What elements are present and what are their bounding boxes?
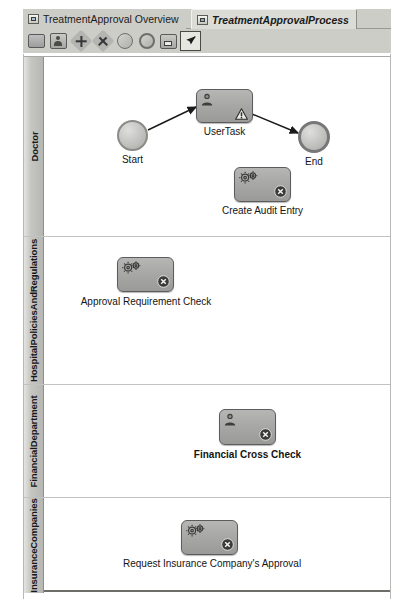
lane-insurance-companies[interactable]: InsuranceCompanies (24, 498, 390, 593)
cancel-badge-icon (157, 275, 170, 288)
user-task-tool[interactable] (48, 31, 69, 51)
gateway-tool[interactable] (92, 31, 113, 51)
lane-body-hospital-policies-and-regulations: Approval Requirement Check (44, 237, 390, 384)
user-task-shape[interactable] (219, 409, 276, 445)
lane-body-insurance-companies: Request Insurance Company's Approval (44, 498, 390, 593)
start-event-circle-icon (117, 120, 148, 151)
gears-icon (239, 171, 258, 185)
user-task-icon (50, 33, 67, 49)
canvas-bottom-spacer (24, 594, 390, 599)
lane-financial-department[interactable]: FinancialDepartment (24, 385, 390, 498)
sub-process-icon (160, 34, 177, 49)
start-event-circle-icon (117, 33, 133, 49)
end-event-circle-icon (298, 121, 330, 153)
node-label: Request Insurance Company's Approval (123, 558, 296, 570)
task-rectangle-icon (28, 34, 45, 48)
plus-gateway-icon (91, 30, 114, 53)
lane-header-hospital-policies-and-regulations[interactable]: HospitalPoliciesAndRegulations (24, 237, 44, 384)
start-event-tool[interactable] (114, 31, 135, 51)
arrow-pointer-icon (183, 34, 198, 49)
lane-title: HospitalPoliciesAndRegulations (28, 239, 39, 382)
editor-tab-bar: TreatmentApproval Overview TreatmentAppr… (23, 9, 391, 29)
service-task-shape[interactable] (181, 520, 238, 555)
node-label: Start (108, 154, 157, 166)
node-label: End (290, 156, 338, 168)
cancel-badge-icon (259, 428, 272, 441)
lane-title: FinancialDepartment (28, 395, 39, 487)
node-label: Approval Requirement Check (77, 296, 215, 308)
bpmn-editor-window: TreatmentApproval Overview TreatmentAppr… (0, 0, 408, 608)
service-task-shape[interactable] (117, 257, 174, 292)
select-tool[interactable] (180, 31, 201, 51)
lane-hospital-policies-and-regulations[interactable]: HospitalPoliciesAndRegulations (24, 237, 390, 385)
cancel-event-tool[interactable] (70, 31, 91, 51)
cancel-x-icon (69, 30, 92, 53)
diagram-overview-icon (28, 14, 39, 24)
warning-triangle-icon (235, 108, 248, 120)
flow-start-to-usertask[interactable] (148, 107, 196, 130)
cancel-badge-icon (274, 185, 287, 198)
tab-treatmentapproval-overview[interactable]: TreatmentApproval Overview (23, 9, 186, 29)
node-label: UserTask (195, 126, 254, 138)
process-diagram-icon (197, 15, 208, 25)
lane-doctor[interactable]: Doctor Start (24, 57, 390, 237)
lane-header-insurance-companies[interactable]: InsuranceCompanies (24, 498, 44, 593)
tab-label: TreatmentApprovalProcess (212, 14, 349, 26)
lane-header-financial-department[interactable]: FinancialDepartment (24, 385, 44, 497)
node-label: Create Audit Entry (215, 205, 310, 217)
user-task-shape[interactable] (196, 89, 253, 123)
node-start-event[interactable]: Start (117, 120, 148, 151)
lane-title: InsuranceCompanies (28, 498, 39, 592)
sub-process-tool[interactable] (158, 31, 179, 51)
service-task-shape[interactable] (234, 167, 291, 202)
tab-label: TreatmentApproval Overview (43, 13, 179, 25)
diagram-canvas[interactable]: Doctor Start (23, 54, 391, 599)
lane-title: Doctor (28, 131, 39, 161)
tab-treatmentapprovalprocess[interactable]: TreatmentApprovalProcess (191, 9, 357, 29)
palette-toolbar (23, 29, 391, 54)
process-pool: Doctor Start (24, 56, 390, 592)
node-label: Financial Cross Check (191, 449, 304, 461)
task-tool[interactable] (26, 31, 47, 51)
lane-body-doctor: Start (44, 57, 390, 236)
node-end-event[interactable]: End (298, 121, 330, 153)
cancel-badge-icon (221, 538, 234, 551)
lane-body-financial-department: Financial Cross Check (44, 385, 390, 497)
lane-header-doctor[interactable]: Doctor (24, 57, 44, 236)
end-event-circle-icon (139, 33, 155, 49)
user-icon (224, 413, 236, 426)
user-icon (201, 93, 213, 106)
end-event-tool[interactable] (136, 31, 157, 51)
window-top-spacer (0, 0, 408, 8)
gears-icon (186, 524, 205, 538)
gears-icon (122, 261, 141, 275)
flow-usertask-to-end[interactable] (252, 114, 298, 133)
